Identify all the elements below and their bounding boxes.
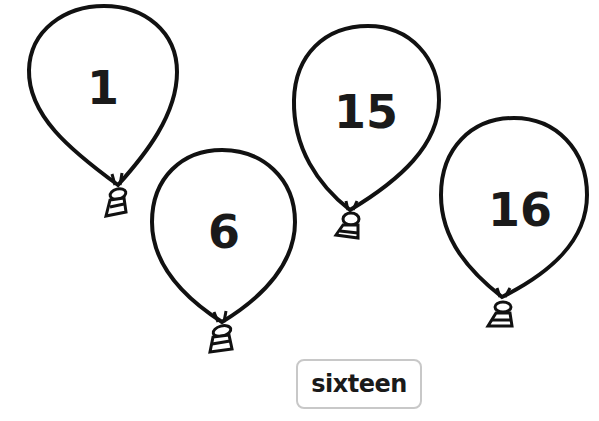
balloon-knot-icon xyxy=(336,201,359,238)
balloon-6[interactable]: 6 xyxy=(152,150,295,352)
balloon-number: 16 xyxy=(488,183,552,237)
number-word-label: sixteen xyxy=(311,370,407,398)
balloon-16[interactable]: 16 xyxy=(441,118,587,326)
balloons-scene: 1 6 15 1 xyxy=(0,0,599,421)
balloon-knot-icon xyxy=(488,288,512,326)
balloon-number: 1 xyxy=(87,61,119,115)
balloon-number: 15 xyxy=(334,85,398,139)
number-word-card[interactable]: sixteen xyxy=(296,359,422,409)
balloon-1[interactable]: 1 xyxy=(29,6,177,216)
balloon-number: 6 xyxy=(208,205,240,259)
balloon-15[interactable]: 15 xyxy=(294,26,439,238)
